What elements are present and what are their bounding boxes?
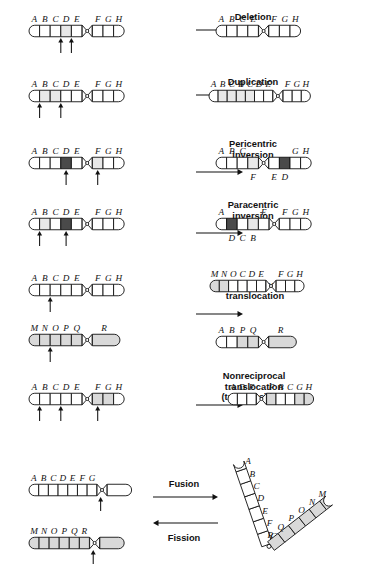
chromosome-band [61,393,72,405]
result-band-label: B [229,14,235,24]
operation-label-fusion: Fusion [169,479,200,489]
result-band-label: G [292,207,299,217]
chromosome-band [50,157,61,169]
result-band-label: H [305,382,314,392]
source-band-label: A [30,382,37,392]
arrow-head [98,497,103,501]
centromere [82,218,92,230]
source-band-label: G [105,273,112,283]
chromosome-diagram: ABCDEFGHDeletionABCEFGHABCDEFGHDuplicati… [0,0,375,573]
source-band-label: C [52,14,59,24]
source-band-label: C [52,146,59,156]
result-right-arm [283,90,310,102]
chromosome-band [279,218,290,230]
source-band-label: R [100,323,107,333]
source-band-label: H [115,273,124,283]
result-band-label: D [255,79,263,89]
chromosome-band [237,336,248,348]
chromosome-band [40,218,51,230]
chromosome-band [258,218,269,230]
chromosome-band [58,484,68,496]
chromosome-band [292,90,301,102]
centromere [82,284,92,296]
source-band-label: F [94,79,101,89]
operation-label-nonreciprocal: Nonreciprocal [223,371,286,381]
source-band-label: B [42,79,48,89]
chromosome-band [228,393,237,405]
chromosome-band [50,334,61,346]
source-band-label: H [115,14,124,24]
chromosome-band [103,25,114,37]
chromosome-band [92,393,103,405]
centromere-dot [262,29,265,32]
result-band-label: E [257,269,264,279]
arrow-head [95,170,100,174]
centromere [82,90,92,102]
band-label: O [298,505,305,515]
chromosome-band [114,90,125,102]
centromere-dot [260,397,263,400]
source-band-label: A [30,146,37,156]
chromosome-band [50,393,61,405]
arrow-head [64,170,69,174]
chromosome-band [301,218,312,230]
centromere-dot [267,544,271,548]
centromere-dot [262,340,265,343]
source-band-label: F [94,207,101,217]
source-band-label: E [73,146,80,156]
source-band-label: H [115,79,124,89]
chromosome-band [40,90,51,102]
source-band-label: A [30,79,37,89]
source-band-label: B [42,273,48,283]
arrow-head [95,406,100,410]
chromosome-band [92,90,103,102]
chromosome-band [69,537,79,549]
chromosome-left-arm [29,157,82,169]
fused-right-arm: RQPONM [267,489,333,550]
result-band-label: A [217,325,224,335]
centromere [82,334,92,346]
chromosome-band [290,218,301,230]
chromosome-band [103,90,114,102]
source-band-label: A [30,473,37,483]
chromosome-band [269,25,280,37]
chromosome-band [247,393,256,405]
chromosome-band [79,537,89,549]
arrow-head [37,406,42,410]
result-left-arm [209,90,273,102]
chromosome-band [276,280,285,292]
chromosome-band [40,393,51,405]
chromosome-band [29,334,40,346]
chromosome-band [50,25,61,37]
result-band-label: P [239,325,246,335]
source-band-label: A [30,273,37,283]
result-band-label: G [292,146,299,156]
chromosome-right-lobe [107,484,131,496]
chromosome-band [290,25,301,37]
band-label: R [267,530,274,540]
band-label: A [244,456,251,466]
result-band-label: A [229,382,236,392]
chromosome-band [227,336,238,348]
source-band-label: H [115,382,124,392]
chromosome-band [216,336,227,348]
chromosome-band [257,280,266,292]
source-band-label: B [42,207,48,217]
arrow-head [58,38,63,42]
result-band-label: C [247,79,254,89]
source-band-label: Q [73,323,80,333]
centromere-dot [86,338,89,341]
result-right-arm [269,157,311,169]
chromosome-band [29,284,40,296]
result-left-arm [216,157,258,169]
chromosome-band [29,484,39,496]
centromere [82,393,92,405]
source-band-label: G [89,473,96,483]
arrow-head [213,494,219,500]
result-band-label: F [249,172,256,182]
source-band-label: D [62,146,70,156]
chromosome-right-arm [92,157,124,169]
chromosome-band [103,157,114,169]
arrow-head [69,38,74,42]
chromosome-band [248,157,259,169]
